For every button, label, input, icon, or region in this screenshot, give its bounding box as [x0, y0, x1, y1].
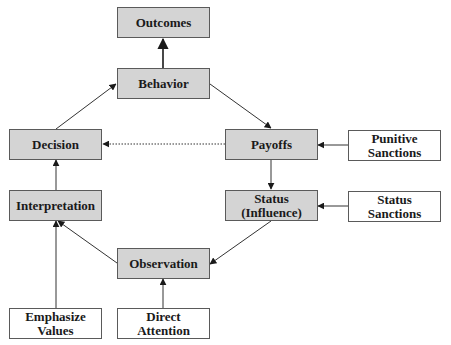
node-interpretation: Interpretation: [9, 190, 102, 221]
node-status-influence: Status (Influence): [225, 190, 318, 221]
edges-layer: [0, 0, 451, 345]
node-emphasize-values-label: Emphasize Values: [25, 310, 86, 338]
edge-decision-behavior: [56, 84, 116, 129]
node-behavior: Behavior: [117, 68, 210, 99]
node-status-sanctions-label: Status Sanctions: [368, 193, 421, 221]
node-observation: Observation: [117, 248, 210, 279]
node-interpretation-label: Interpretation: [16, 199, 95, 213]
node-direct-attention-label: Direct Attention: [137, 310, 190, 338]
node-payoffs: Payoffs: [225, 129, 318, 160]
flow-diagram: Outcomes Behavior Decision Payoffs Punit…: [0, 0, 451, 345]
node-punitive-sanctions: Punitive Sanctions: [348, 130, 441, 161]
node-direct-attention: Direct Attention: [117, 308, 210, 339]
node-status-sanctions: Status Sanctions: [348, 191, 441, 222]
edge-observation-interpretation: [58, 221, 117, 263]
node-status-influence-label: Status (Influence): [241, 192, 302, 220]
node-punitive-sanctions-label: Punitive Sanctions: [368, 132, 421, 160]
node-decision: Decision: [9, 129, 102, 160]
node-outcomes: Outcomes: [117, 7, 210, 38]
edge-behavior-payoffs: [210, 84, 271, 128]
edge-status-observation: [210, 221, 271, 264]
node-observation-label: Observation: [129, 257, 198, 271]
node-emphasize-values: Emphasize Values: [9, 308, 102, 339]
node-payoffs-label: Payoffs: [251, 138, 292, 152]
node-outcomes-label: Outcomes: [136, 16, 192, 30]
node-decision-label: Decision: [32, 138, 79, 152]
node-behavior-label: Behavior: [138, 77, 189, 91]
